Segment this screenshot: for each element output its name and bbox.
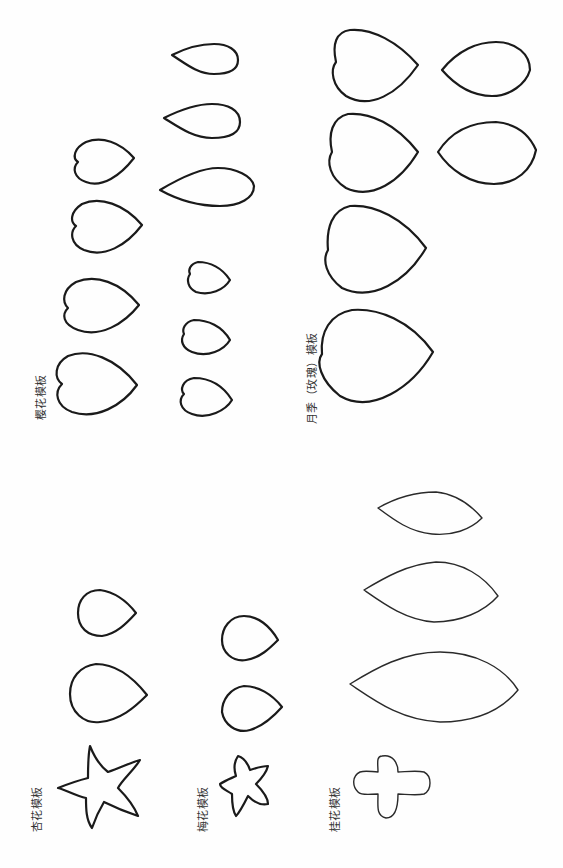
rose-petal-3 — [325, 206, 426, 293]
rose-oval-1 — [442, 42, 530, 96]
cherry-petal-1 — [75, 140, 134, 184]
leaf-petal-2 — [164, 104, 240, 138]
template-page: 樱花模板 月季（玫瑰）模板 杏花模板 梅花模板 桂花模板 — [0, 0, 563, 868]
cherry-petal-4 — [57, 353, 137, 414]
osmanthus-shapes — [350, 492, 518, 818]
middle-small-petals — [181, 262, 232, 416]
apricot-shapes — [58, 590, 147, 828]
plum-shapes — [220, 616, 282, 816]
template-shapes — [0, 0, 563, 868]
apricot-teardrop-1 — [78, 590, 136, 636]
small-petal-3 — [181, 378, 232, 416]
apricot-teardrop-2 — [70, 664, 147, 722]
rose-petals — [319, 30, 536, 402]
leaf-petal-1 — [172, 44, 238, 74]
cherry-petals — [57, 140, 142, 415]
cherry-petal-3 — [64, 279, 139, 332]
rose-petal-2 — [329, 114, 418, 192]
plum-star — [220, 756, 268, 816]
middle-leaf-petals — [160, 44, 254, 206]
plum-teardrop-1 — [222, 616, 278, 660]
leaf-petal-3 — [160, 168, 254, 206]
small-petal-1 — [188, 262, 230, 293]
osmanthus-leaf-3 — [350, 652, 518, 722]
osmanthus-leaf-2 — [364, 562, 498, 622]
osmanthus-cross — [354, 756, 430, 818]
osmanthus-leaf-1 — [378, 492, 482, 534]
cherry-petal-2 — [72, 201, 142, 253]
plum-teardrop-2 — [222, 686, 282, 731]
small-petal-2 — [182, 320, 230, 354]
apricot-star — [58, 746, 140, 828]
rose-oval-2 — [438, 122, 536, 184]
rose-petal-1 — [333, 30, 418, 101]
rose-petal-4 — [319, 310, 433, 402]
